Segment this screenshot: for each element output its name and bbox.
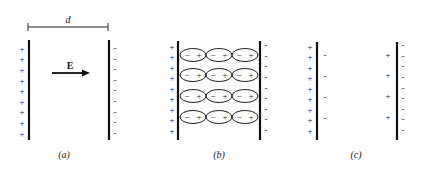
- svg-text:−: −: [184, 70, 189, 80]
- svg-text:+: +: [19, 97, 24, 107]
- svg-text:+: +: [307, 63, 312, 73]
- svg-text:-: -: [402, 83, 405, 93]
- caption-a: (a): [58, 149, 70, 161]
- svg-text:+: +: [248, 50, 253, 60]
- svg-text:+: +: [19, 118, 24, 128]
- svg-text:+: +: [196, 91, 201, 101]
- svg-text:+: +: [169, 94, 174, 104]
- dipole: −+: [232, 69, 258, 82]
- svg-text:+: +: [248, 112, 253, 122]
- svg-text:+: +: [169, 52, 174, 62]
- svg-text:+: +: [307, 84, 312, 94]
- svg-text:+: +: [222, 50, 227, 60]
- svg-text:+: +: [19, 76, 24, 86]
- positive-charges: + + + + + + + + +: [307, 42, 312, 136]
- electric-field-arrow-icon: E: [52, 60, 90, 77]
- capacitor-dielectric-diagram: d + + + + + + + + + - - - - - - - - -: [0, 0, 421, 177]
- svg-text:+: +: [169, 115, 174, 125]
- svg-text:-: -: [114, 96, 117, 106]
- svg-text:+: +: [307, 42, 312, 52]
- svg-text:-: -: [324, 92, 327, 102]
- svg-text:-: -: [265, 104, 268, 114]
- svg-text:+: +: [307, 105, 312, 115]
- svg-text:−: −: [210, 112, 215, 122]
- svg-text:-: -: [114, 43, 117, 53]
- positive-charges: + + + + + + + + +: [169, 42, 174, 136]
- svg-text:-: -: [402, 104, 405, 114]
- svg-text:+: +: [307, 126, 312, 136]
- dipole: −+: [232, 111, 258, 124]
- svg-text:-: -: [265, 114, 268, 124]
- svg-text:-: -: [265, 125, 268, 135]
- svg-text:−: −: [210, 91, 215, 101]
- svg-text:+: +: [196, 112, 201, 122]
- svg-text:+: +: [222, 112, 227, 122]
- svg-text:+: +: [169, 42, 174, 52]
- svg-text:-: -: [402, 61, 405, 71]
- svg-text:−: −: [210, 50, 215, 60]
- svg-text:-: -: [265, 40, 268, 50]
- svg-text:-: -: [114, 75, 117, 85]
- svg-text:-: -: [265, 93, 268, 103]
- svg-text:+: +: [307, 52, 312, 62]
- svg-text:+: +: [169, 126, 174, 136]
- svg-text:+: +: [222, 70, 227, 80]
- svg-text:−: −: [236, 50, 241, 60]
- svg-text:-: -: [324, 71, 327, 81]
- svg-text:-: -: [114, 64, 117, 74]
- svg-text:-: -: [114, 128, 117, 138]
- panel-a: d + + + + + + + + + - - - - - - - - -: [19, 14, 116, 161]
- svg-text:+: +: [222, 91, 227, 101]
- svg-text:+: +: [307, 115, 312, 125]
- svg-text:-: -: [402, 51, 405, 61]
- dipole: −+: [206, 111, 232, 124]
- svg-text:-: -: [114, 54, 117, 64]
- svg-text:-: -: [324, 50, 327, 60]
- svg-text:-: -: [265, 83, 268, 93]
- svg-text:−: −: [184, 50, 189, 60]
- negative-charges: - - - - - - - - -: [114, 43, 117, 138]
- negative-charges: - - - - - - - - -: [265, 40, 268, 135]
- induced-positive-charges: + + + +: [385, 50, 390, 122]
- dipole: −+: [180, 49, 206, 62]
- svg-text:-: -: [265, 72, 268, 82]
- svg-text:+: +: [169, 105, 174, 115]
- dipole: −+: [206, 49, 232, 62]
- svg-text:−: −: [236, 91, 241, 101]
- dipole: −+: [232, 90, 258, 103]
- svg-text:−: −: [184, 112, 189, 122]
- svg-text:+: +: [385, 50, 390, 60]
- dipole: −+: [180, 69, 206, 82]
- svg-text:−: −: [236, 112, 241, 122]
- dipole: −+: [232, 49, 258, 62]
- svg-text:−: −: [236, 70, 241, 80]
- svg-text:-: -: [114, 85, 117, 95]
- dipole-grid: −+ −+ −+ −+ −+ −+: [180, 49, 258, 124]
- panel-c: + + + + + + + + + - - - - + + + + - - - …: [307, 40, 404, 161]
- svg-text:−: −: [210, 70, 215, 80]
- panel-b: + + + + + + + + + - - - - - - - - - −+: [169, 40, 267, 161]
- svg-text:+: +: [196, 70, 201, 80]
- svg-text:+: +: [307, 94, 312, 104]
- dipole: −+: [180, 90, 206, 103]
- svg-text:+: +: [196, 50, 201, 60]
- field-label: E: [67, 60, 74, 71]
- svg-text:-: -: [402, 40, 405, 50]
- svg-text:+: +: [19, 44, 24, 54]
- svg-text:-: -: [265, 51, 268, 61]
- svg-text:+: +: [19, 86, 24, 96]
- svg-text:+: +: [169, 73, 174, 83]
- svg-text:+: +: [385, 91, 390, 101]
- svg-text:+: +: [19, 129, 24, 139]
- svg-text:+: +: [385, 112, 390, 122]
- svg-text:-: -: [324, 113, 327, 123]
- svg-text:-: -: [402, 114, 405, 124]
- svg-text:+: +: [248, 91, 253, 101]
- caption-b: (b): [213, 149, 225, 161]
- svg-text:+: +: [307, 73, 312, 83]
- svg-text:+: +: [19, 65, 24, 75]
- dipole: −+: [206, 90, 232, 103]
- svg-text:+: +: [248, 70, 253, 80]
- svg-text:+: +: [169, 84, 174, 94]
- induced-negative-charges: - - - -: [324, 50, 327, 123]
